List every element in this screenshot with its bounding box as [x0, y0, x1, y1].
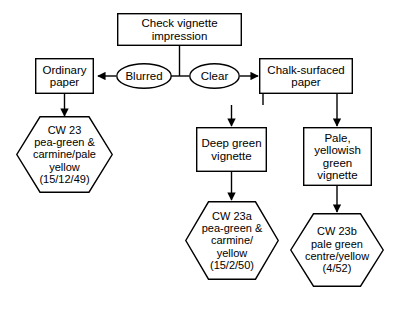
- box-shape: [259, 58, 353, 94]
- flowchart-canvas: Check vignette impression Blurred Clear …: [0, 0, 399, 309]
- node-cw-23a[interactable]: CW 23a pea-green & carmine/ yellow (15/2…: [185, 201, 279, 280]
- ellipse-shape: [116, 63, 172, 89]
- hexagon-shape: [185, 201, 279, 280]
- node-pale-yellowish-green-vignette[interactable]: Pale, yellowish green vignette: [303, 127, 372, 186]
- hexagon-shape: [290, 213, 384, 287]
- box-shape: [303, 127, 372, 186]
- hexagon-shape: [16, 116, 113, 193]
- box-shape: [35, 58, 94, 94]
- box-shape: [117, 13, 242, 46]
- node-check-vignette-impression[interactable]: Check vignette impression: [117, 13, 242, 46]
- ellipse-shape: [189, 63, 240, 89]
- node-cw-23b[interactable]: CW 23b pale green centre/yellow (4/52): [290, 213, 384, 287]
- node-ordinary-paper[interactable]: Ordinary paper: [35, 58, 94, 94]
- box-shape: [196, 127, 267, 172]
- node-chalk-surfaced-paper[interactable]: Chalk-surfaced paper: [259, 58, 353, 94]
- node-cw-23[interactable]: CW 23 pea-green & carmine/pale yellow (1…: [16, 116, 113, 193]
- node-clear[interactable]: Clear: [189, 63, 240, 89]
- node-deep-green-vignette[interactable]: Deep green vignette: [196, 127, 267, 172]
- node-blurred[interactable]: Blurred: [116, 63, 172, 89]
